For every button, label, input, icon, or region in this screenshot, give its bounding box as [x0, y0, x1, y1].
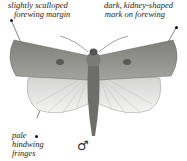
kidney-mark-left [56, 59, 64, 65]
annotation-scalloped-margin: slightly scalloped forewing margin [8, 1, 70, 19]
annotation-line: fringes [12, 149, 44, 158]
annotation-kidney-mark: dark, kidney-shaped mark on forewing [104, 1, 173, 19]
male-symbol: ♂ [77, 138, 89, 153]
forewing-right [97, 40, 177, 80]
annotation-dot [10, 19, 13, 22]
annotation-line: mark on forewing [104, 10, 173, 19]
head [90, 49, 98, 56]
annotation-hindwing-fringes: pale hindwing fringes [12, 131, 44, 158]
antenna-right [99, 36, 128, 52]
annotation-dot [175, 26, 178, 29]
antenna-left [60, 36, 88, 52]
forewing-left [10, 40, 90, 80]
annotation-dot [35, 135, 38, 138]
annotation-line: forewing margin [8, 10, 70, 19]
leader-line [168, 28, 176, 42]
kidney-mark-right [123, 59, 131, 65]
abdomen [88, 66, 100, 136]
